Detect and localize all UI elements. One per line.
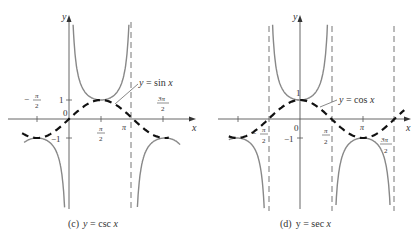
tick-label-neg-pi-over-2-minus: − (24, 94, 29, 104)
tick-label-neg-one: −1 (51, 134, 61, 144)
caption-c-prefix: (c) (68, 218, 79, 230)
y-axis-arrow-icon (67, 15, 72, 22)
tick-label-neg-pi-over-2-minus: − (251, 128, 256, 138)
figure-canvas: y x 1 0 −1 − π 2 π 2 π 3π 2 y = sin x (c… (0, 0, 420, 243)
svg-text:y = cos x: y = cos x (338, 94, 375, 105)
tick-label-pi-over-2-num: π (324, 127, 328, 135)
svg-text:y = sin x: y = sin x (138, 77, 173, 88)
sin-label-pointer (115, 84, 138, 104)
x-axis-label: x (191, 122, 197, 133)
sec-branch-lower-right (336, 138, 390, 205)
tick-label-3pi-over-2-den: 2 (161, 105, 165, 113)
sec-branch-lower-left (229, 138, 264, 208)
graph-sec: y x 1 0 −1 − π 2 π 2 π 3π 2 y = cos x (d… (218, 11, 411, 230)
tick-label-one: 1 (59, 95, 64, 105)
caption-c-x: x (112, 218, 118, 229)
tick-label-neg-pi-over-2-den: 2 (35, 102, 39, 110)
svg-text:(d)y = sec x: (d)y = sec x (280, 218, 332, 230)
sin-label-eq: = sin (143, 77, 168, 88)
graph-csc: y x 1 0 −1 − π 2 π 2 π 3π 2 y = sin x (c… (8, 11, 197, 230)
x-axis-arrow-icon (404, 117, 411, 122)
caption-d-eq: = sec (301, 218, 327, 229)
caption-c-eq: = csc (88, 218, 114, 229)
tick-label-pi-over-2-den: 2 (99, 135, 103, 143)
tick-label-3pi-over-2-den: 2 (384, 147, 388, 155)
caption-d-x: x (326, 218, 332, 229)
x-axis-label: x (405, 122, 411, 133)
tick-label-neg-pi-over-2-den: 2 (262, 137, 266, 145)
tick-label-pi-over-2-den: 2 (324, 138, 328, 146)
tick-label-neg-one: −1 (284, 134, 294, 144)
tick-label-neg-pi-over-2-num: π (35, 92, 39, 100)
cos-label-x: x (369, 94, 375, 105)
cos-label-pointer (320, 100, 337, 107)
sin-label-x: x (167, 77, 173, 88)
tick-label-3pi-over-2-num: 3π (380, 136, 389, 144)
y-axis-label: y (292, 11, 298, 22)
tick-label-3pi-over-2-num: 3π (157, 95, 166, 103)
caption-d-prefix: (d) (280, 218, 292, 230)
tick-label-one: 1 (296, 88, 301, 98)
x-axis-arrow-icon (189, 117, 196, 122)
tick-label-pi: π (122, 123, 127, 132)
svg-text:(c)y = csc x: (c)y = csc x (68, 218, 118, 230)
csc-branch-lower-right (137, 138, 180, 207)
csc-branch-upper (73, 25, 129, 100)
y-axis-arrow-icon (298, 15, 303, 22)
cos-label-eq: = cos (343, 94, 369, 105)
csc-branch-lower-left (24, 138, 64, 207)
origin-label: 0 (63, 108, 68, 118)
tick-label-pi: π (360, 123, 365, 132)
y-axis-label: y (61, 11, 67, 22)
origin-label: 0 (294, 123, 299, 133)
tick-label-neg-pi-over-2-num: π (262, 126, 266, 134)
tick-label-pi-over-2-num: π (99, 125, 103, 133)
